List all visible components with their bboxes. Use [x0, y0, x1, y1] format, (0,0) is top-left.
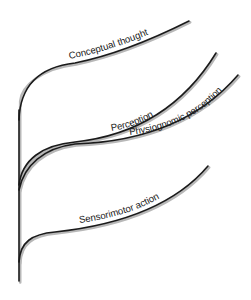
developmental-tree-diagram: Conceptual thought Perception Physiognom… [0, 0, 251, 300]
branch-shadows [20, 22, 239, 282]
label-physiognomic-perception: Physiognomic perception [128, 84, 223, 137]
